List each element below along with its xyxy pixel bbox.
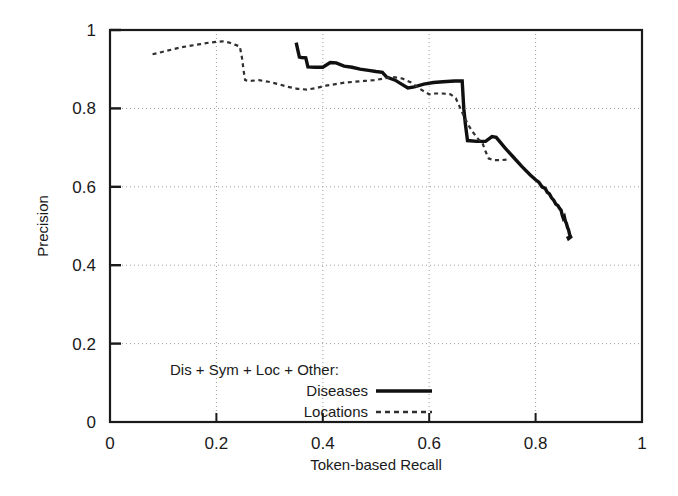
precision-recall-chart: 00.20.40.60.81 00.20.40.60.81 Token-base… bbox=[0, 0, 678, 496]
y-tick-label: 0.8 bbox=[72, 99, 96, 118]
x-tick-label: 1 bbox=[637, 434, 646, 453]
y-tick-label: 1 bbox=[87, 21, 96, 40]
y-tick-label: 0.2 bbox=[72, 335, 96, 354]
y-tick-label: 0 bbox=[87, 413, 96, 432]
legend-title: Dis + Sym + Loc + Other: bbox=[170, 361, 339, 378]
x-axis-title: Token-based Recall bbox=[310, 456, 442, 473]
x-tick-label: 0 bbox=[105, 434, 114, 453]
y-tick-label: 0.4 bbox=[72, 256, 96, 275]
y-tick-label: 0.6 bbox=[72, 178, 96, 197]
x-tick-label: 0.8 bbox=[524, 434, 548, 453]
legend-label-locations: Locations bbox=[304, 403, 368, 420]
legend-label-diseases: Diseases bbox=[306, 382, 368, 399]
x-tick-label: 0.2 bbox=[205, 434, 229, 453]
x-tick-label: 0.4 bbox=[311, 434, 335, 453]
x-tick-label: 0.6 bbox=[417, 434, 441, 453]
y-axis-title: Precision bbox=[34, 195, 51, 257]
chart-svg: 00.20.40.60.81 00.20.40.60.81 Token-base… bbox=[0, 0, 678, 496]
